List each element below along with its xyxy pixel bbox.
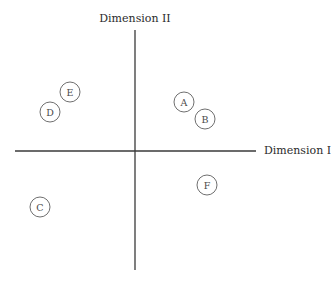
dimension-i-label: Dimension I bbox=[264, 144, 331, 157]
point-c: C bbox=[30, 197, 50, 217]
data-points: ABCDEF bbox=[30, 82, 217, 217]
point-f: F bbox=[197, 175, 217, 195]
point-d: D bbox=[40, 102, 60, 122]
perceptual-map: Dimension I Dimension II ABCDEF bbox=[0, 0, 335, 284]
point-label: A bbox=[180, 97, 188, 108]
point-label: C bbox=[36, 202, 43, 213]
point-label: B bbox=[202, 114, 209, 125]
point-b: B bbox=[195, 109, 215, 129]
point-e: E bbox=[60, 82, 80, 102]
point-a: A bbox=[174, 92, 194, 112]
point-label: E bbox=[67, 87, 74, 98]
point-label: F bbox=[204, 180, 211, 191]
point-label: D bbox=[46, 107, 54, 118]
dimension-ii-label: Dimension II bbox=[99, 12, 170, 25]
